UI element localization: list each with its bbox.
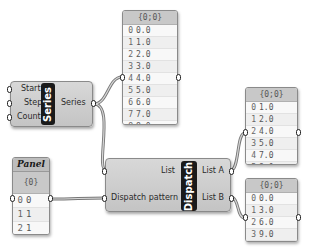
list-item: 24.0: [246, 126, 297, 138]
series-nickname: Series: [41, 83, 55, 125]
panel-path-header: {0;0}: [246, 88, 297, 102]
series-component[interactable]: Start Step Count Series Series: [10, 81, 93, 127]
list-item: 12.0: [246, 114, 297, 126]
dispatch-pattern-input-grip[interactable]: [102, 195, 107, 202]
list-item: 47.0: [246, 150, 297, 162]
step-input-label: Step: [24, 98, 42, 107]
list-item: 00.0: [123, 25, 177, 37]
list-item: 35.0: [246, 138, 297, 150]
panel-title: Panel: [13, 158, 49, 172]
series-output-grip[interactable]: [91, 100, 96, 107]
list-a-panel-input-grip[interactable]: [243, 129, 248, 136]
list-item: 13.0: [246, 205, 297, 217]
series-panel-input-grip[interactable]: [120, 74, 125, 81]
list-a-output-label: List A: [202, 166, 224, 175]
list-item: 77.0: [123, 109, 177, 121]
list-b-panel-input-grip[interactable]: [243, 214, 248, 221]
list-b-output-grip[interactable]: [229, 195, 234, 202]
list-item: 26.0: [246, 217, 297, 229]
series-values-panel[interactable]: {0;0} 00.0 11.0 22.0 33.0 44.0 55.0 66.0…: [122, 10, 178, 125]
list-item: 39.0: [246, 229, 297, 241]
dispatch-nickname: Dispatch: [181, 161, 197, 211]
list-input-grip[interactable]: [102, 168, 107, 175]
list-item: 00.0: [246, 193, 297, 205]
list-input-label: List: [161, 166, 175, 175]
list-item: 11: [13, 208, 49, 222]
pattern-panel-output-grip[interactable]: [48, 195, 53, 202]
list-item: 01.0: [246, 102, 297, 114]
list-item: 44.0: [123, 73, 177, 85]
list-b-panel[interactable]: {0;0} 00.0 13.0 26.0 39.0: [245, 178, 298, 242]
pattern-panel-input-grip[interactable]: [10, 195, 15, 202]
panel-path-header: {0;0}: [246, 179, 297, 193]
dispatch-pattern-input-label: Dispatch pattern: [111, 193, 178, 202]
list-item: 33.0: [123, 61, 177, 73]
list-item: 11.0: [123, 37, 177, 49]
count-input-label: Count: [17, 112, 41, 121]
dispatch-component[interactable]: List Dispatch pattern Dispatch List A Li…: [105, 158, 231, 212]
step-input-grip[interactable]: [7, 100, 12, 107]
start-input-label: Start: [21, 84, 41, 93]
list-item: 66.0: [123, 97, 177, 109]
dispatch-pattern-panel[interactable]: Panel {0} 00 11 21: [12, 157, 50, 235]
series-output-label: Series: [61, 98, 86, 107]
list-item: 88.0: [123, 121, 177, 125]
list-b-panel-output-grip[interactable]: [296, 214, 301, 221]
list-a-panel-output-grip[interactable]: [296, 129, 301, 136]
list-item: 00: [13, 194, 49, 208]
start-input-grip[interactable]: [7, 86, 12, 93]
panel-path-header: {0;0}: [123, 11, 177, 25]
list-item: 22.0: [123, 49, 177, 61]
list-item: 21: [13, 222, 49, 235]
panel-path-header: {0}: [13, 172, 49, 194]
count-input-grip[interactable]: [7, 114, 12, 121]
list-item: 58.0: [246, 162, 297, 165]
list-b-output-label: List B: [202, 193, 224, 202]
list-item: 55.0: [123, 85, 177, 97]
list-a-panel[interactable]: {0;0} 01.0 12.0 24.0 35.0 47.0 58.0: [245, 87, 298, 165]
series-panel-output-grip[interactable]: [176, 74, 181, 81]
list-a-output-grip[interactable]: [229, 168, 234, 175]
